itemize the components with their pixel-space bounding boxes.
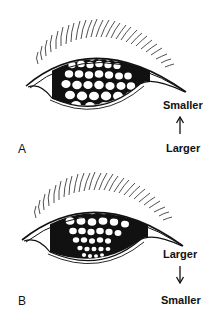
panel-a-top-label: Smaller bbox=[163, 100, 203, 111]
eye-a-illustration bbox=[0, 0, 214, 162]
panel-b-top-label: Larger bbox=[163, 249, 197, 260]
panel-a: Smaller Larger A bbox=[0, 0, 214, 162]
panel-a-letter: A bbox=[18, 143, 26, 155]
panel-b: Larger Smaller B bbox=[0, 162, 214, 324]
arrow-up-icon bbox=[174, 116, 186, 134]
panel-a-bottom-label: Larger bbox=[166, 143, 200, 154]
panel-b-bottom-label: Smaller bbox=[161, 295, 201, 306]
arrow-down-icon bbox=[174, 266, 186, 284]
panel-b-letter: B bbox=[18, 295, 26, 307]
